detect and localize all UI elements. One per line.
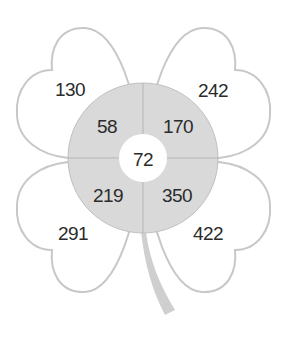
ring-top-left-value: 58 bbox=[97, 116, 117, 138]
ring-bottom-right-value: 350 bbox=[162, 185, 192, 207]
ring-top-right-value: 170 bbox=[163, 116, 193, 138]
ring-bottom-left-value: 219 bbox=[93, 185, 123, 207]
leaf-bottom-right-value: 422 bbox=[193, 223, 223, 245]
leaf-top-left-value: 130 bbox=[55, 79, 85, 101]
leaf-bottom-left-value: 291 bbox=[58, 223, 88, 245]
leaf-top-right-value: 242 bbox=[198, 80, 228, 102]
center-value: 72 bbox=[133, 149, 153, 171]
